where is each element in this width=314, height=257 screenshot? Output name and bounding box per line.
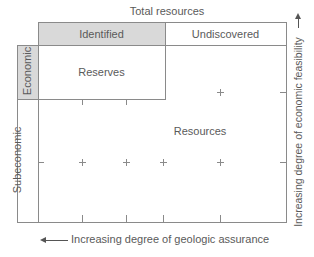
grid-plus-marker (160, 159, 167, 166)
frame-top (38, 22, 286, 23)
tick (280, 92, 286, 93)
y-axis-label: Increasing degree of economic feasibilit… (292, 32, 304, 232)
reserves-label: Reserves (38, 66, 165, 78)
tick (163, 215, 164, 222)
tick (220, 215, 221, 222)
subeconomic-label: Subeconomic (11, 125, 23, 195)
frame-bottom (17, 222, 287, 223)
undiscovered-label: Undiscovered (165, 28, 286, 40)
grid-plus-marker (217, 159, 224, 166)
header-divider (17, 45, 286, 46)
identified-label: Identified (38, 28, 165, 40)
frame-right (286, 22, 287, 222)
x-axis-label: Increasing degree of geologic assurance (71, 233, 269, 245)
tick (82, 215, 83, 222)
tick (126, 99, 127, 105)
tick (280, 162, 286, 163)
grid-plus-marker (123, 159, 130, 166)
tick (38, 162, 44, 163)
diagram-title: Total resources (0, 5, 314, 17)
y-axis-arrowhead-icon (295, 13, 301, 19)
grid-plus-marker (79, 159, 86, 166)
x-axis-arrowhead-icon (40, 237, 46, 243)
grid-plus-marker (217, 89, 224, 96)
tick (82, 99, 83, 105)
resources-label: Resources (160, 125, 240, 137)
reserves-bottom (17, 99, 166, 100)
frame-left (38, 22, 39, 222)
tick (126, 215, 127, 222)
economic-label: Economic (21, 41, 33, 101)
